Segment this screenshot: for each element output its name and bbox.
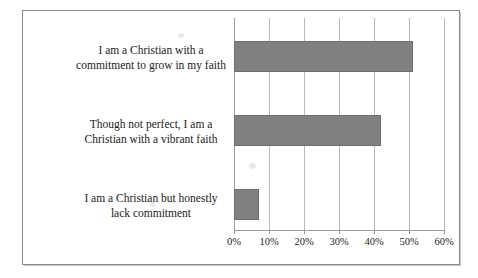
chart-screenshot: I am a Christian with a commitment to gr… <box>0 0 478 278</box>
x-tick-label-50: 50% <box>389 236 429 247</box>
bar-1 <box>234 115 381 146</box>
category-label-2-line-1: lack commitment <box>53 206 249 221</box>
tick-mark-0 <box>234 230 235 234</box>
category-label-2-line-0: I am a Christian but honestly <box>53 191 249 206</box>
category-label-2: I am a Christian but honestly lack commi… <box>53 191 249 221</box>
category-label-0-line-1: commitment to grow in my faith <box>53 58 249 73</box>
tick-mark-60 <box>444 230 445 234</box>
tick-mark-10 <box>269 230 270 234</box>
plot-area <box>234 18 444 230</box>
x-tick-label-20: 20% <box>284 236 324 247</box>
x-tick-label-40: 40% <box>354 236 394 247</box>
category-label-0: I am a Christian with a commitment to gr… <box>53 43 249 73</box>
x-tick-label-30: 30% <box>319 236 359 247</box>
category-label-1-line-0: Though not perfect, I am a <box>53 117 249 132</box>
x-tick-label-0: 0% <box>214 236 254 247</box>
bar-2 <box>234 189 259 220</box>
category-label-1-line-1: Christian with a vibrant faith <box>53 132 249 147</box>
bar-0 <box>234 41 413 72</box>
x-tick-label-10: 10% <box>249 236 289 247</box>
x-tick-label-60: 60% <box>424 236 464 247</box>
category-label-0-line-0: I am a Christian with a <box>53 43 249 58</box>
gridline-60 <box>444 18 445 230</box>
tick-mark-40 <box>374 230 375 234</box>
tick-mark-30 <box>339 230 340 234</box>
tick-mark-20 <box>304 230 305 234</box>
tick-mark-50 <box>409 230 410 234</box>
category-label-1: Though not perfect, I am a Christian wit… <box>53 117 249 147</box>
scan-speckle <box>178 33 184 38</box>
